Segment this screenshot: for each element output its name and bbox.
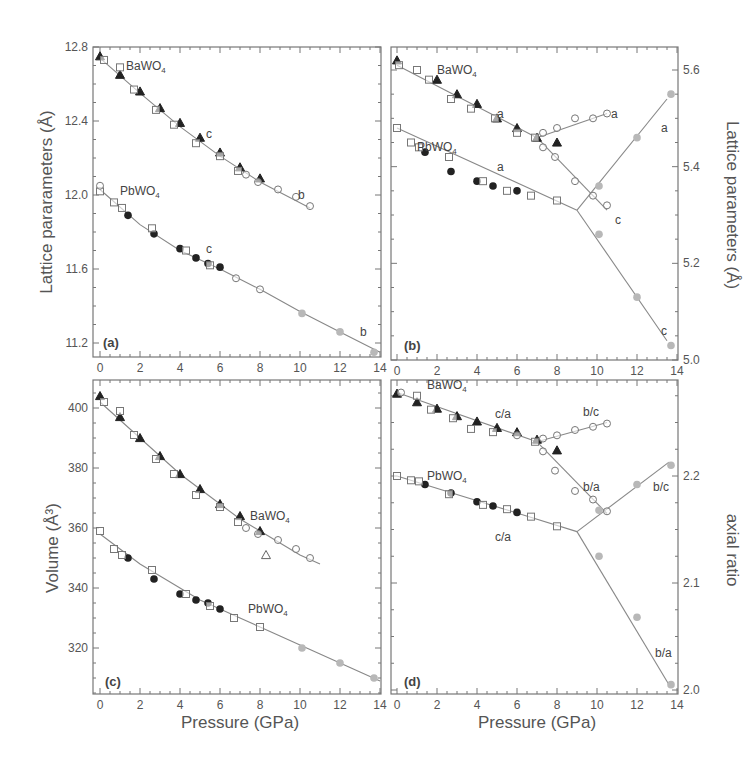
data-point xyxy=(131,432,138,439)
y-tick-label: 12.4 xyxy=(65,114,89,128)
y-axis-title-a: Lattice pararameters (Å) xyxy=(37,110,56,293)
data-point xyxy=(414,67,421,74)
data-point xyxy=(408,477,415,484)
data-point xyxy=(119,204,126,211)
data-point xyxy=(572,426,579,433)
x-tick-label: 2 xyxy=(434,364,441,378)
data-point xyxy=(572,487,579,494)
data-point xyxy=(633,481,641,489)
x-tick-label: 14 xyxy=(373,698,387,712)
data-point xyxy=(590,115,597,122)
data-point xyxy=(667,681,675,689)
x-tick-label: 8 xyxy=(554,364,561,378)
data-point xyxy=(149,225,156,232)
data-point xyxy=(480,178,487,185)
plot-frame xyxy=(391,380,678,694)
x-tick-label: 0 xyxy=(97,698,104,712)
data-point xyxy=(554,523,561,530)
data-point xyxy=(590,496,597,503)
data-point xyxy=(153,456,160,463)
y-tick-label: 2.0 xyxy=(683,683,700,697)
data-point xyxy=(489,502,497,510)
data-point xyxy=(667,462,675,470)
data-point xyxy=(243,525,250,532)
annotation: c xyxy=(206,242,212,256)
data-point xyxy=(217,504,224,511)
data-point xyxy=(408,139,415,146)
x-tick-label: 6 xyxy=(514,364,521,378)
data-point xyxy=(590,192,597,199)
annotation: b/c xyxy=(653,480,669,494)
data-point xyxy=(604,420,611,427)
data-point xyxy=(153,106,160,113)
annotation: a xyxy=(611,107,618,121)
data-point xyxy=(633,134,641,142)
data-point xyxy=(255,179,262,186)
x-tick-label: 12 xyxy=(333,698,347,712)
annotation: c xyxy=(661,324,667,338)
annotation: b/a xyxy=(583,480,600,494)
x-tick-label: 12 xyxy=(333,361,347,375)
data-point xyxy=(604,110,611,117)
data-point xyxy=(572,115,579,122)
data-point xyxy=(275,537,282,544)
y-tick-label: 400 xyxy=(68,401,88,415)
data-point xyxy=(414,392,421,399)
data-point xyxy=(394,473,401,480)
x-tick-label: 4 xyxy=(474,698,481,712)
x-tick-label: 10 xyxy=(293,361,307,375)
data-point xyxy=(193,140,200,147)
x-tick-label: 2 xyxy=(434,698,441,712)
annotation: PbWO4 xyxy=(120,184,160,200)
data-point xyxy=(119,552,126,559)
data-point xyxy=(448,96,455,103)
data-point xyxy=(131,86,138,93)
x-tick-label: 2 xyxy=(137,698,144,712)
data-point xyxy=(490,429,497,436)
annotation: BaWO4 xyxy=(427,378,467,394)
data-point xyxy=(604,202,611,209)
data-point xyxy=(513,187,521,195)
data-point xyxy=(540,129,547,136)
data-point xyxy=(552,467,559,474)
data-point xyxy=(554,125,561,132)
annotation: b/c xyxy=(583,405,599,419)
data-point xyxy=(293,546,300,553)
x-axis-title-d: Pressure (GPa) xyxy=(478,713,596,732)
data-point xyxy=(480,501,487,508)
data-point xyxy=(396,62,403,69)
data-point xyxy=(262,551,271,559)
fit-line xyxy=(537,442,607,514)
annotation: BaWO4 xyxy=(250,509,290,525)
data-point xyxy=(171,121,178,128)
data-point xyxy=(426,76,433,83)
annotation: PbWO4 xyxy=(417,140,457,156)
panel-label-d: (d) xyxy=(404,674,421,689)
data-point xyxy=(446,491,453,498)
y-axis-title-d: axial ratio xyxy=(723,514,742,587)
data-point xyxy=(394,125,401,132)
data-point xyxy=(370,674,378,682)
panel-label-c: (c) xyxy=(105,674,121,689)
data-point xyxy=(117,408,124,415)
x-tick-label: 2 xyxy=(137,361,144,375)
data-point xyxy=(183,247,190,254)
y-tick-label: 12.0 xyxy=(65,188,89,202)
data-point xyxy=(595,231,603,239)
annotation: b xyxy=(360,325,367,339)
fit-line xyxy=(100,190,380,353)
data-point xyxy=(257,624,264,631)
fit-line xyxy=(577,210,667,341)
data-point xyxy=(398,389,405,396)
x-tick-label: 0 xyxy=(394,364,401,378)
y-axis-title-c: Volume (Å³) xyxy=(43,503,62,593)
data-point xyxy=(192,254,200,262)
data-point xyxy=(633,293,641,301)
data-point xyxy=(468,105,475,112)
data-point xyxy=(554,197,561,204)
x-tick-label: 8 xyxy=(257,361,264,375)
data-point xyxy=(298,644,306,652)
annotation: a xyxy=(661,121,668,135)
data-point xyxy=(193,492,200,499)
data-point xyxy=(595,506,603,514)
